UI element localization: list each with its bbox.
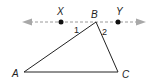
label-x: X — [56, 6, 64, 17]
left-arrowhead-icon — [22, 19, 32, 26]
label-angle-2: 2 — [102, 27, 107, 37]
label-angle-1: 1 — [74, 25, 79, 35]
label-y: Y — [116, 6, 124, 17]
label-c: C — [122, 69, 130, 80]
point-x — [59, 20, 64, 25]
point-y — [116, 20, 121, 25]
label-a: A — [11, 68, 19, 79]
label-b: B — [91, 9, 98, 20]
line-xy — [22, 19, 146, 26]
geometry-diagram: X B Y A C 1 2 — [0, 0, 154, 84]
right-arrowhead-icon — [136, 19, 146, 26]
